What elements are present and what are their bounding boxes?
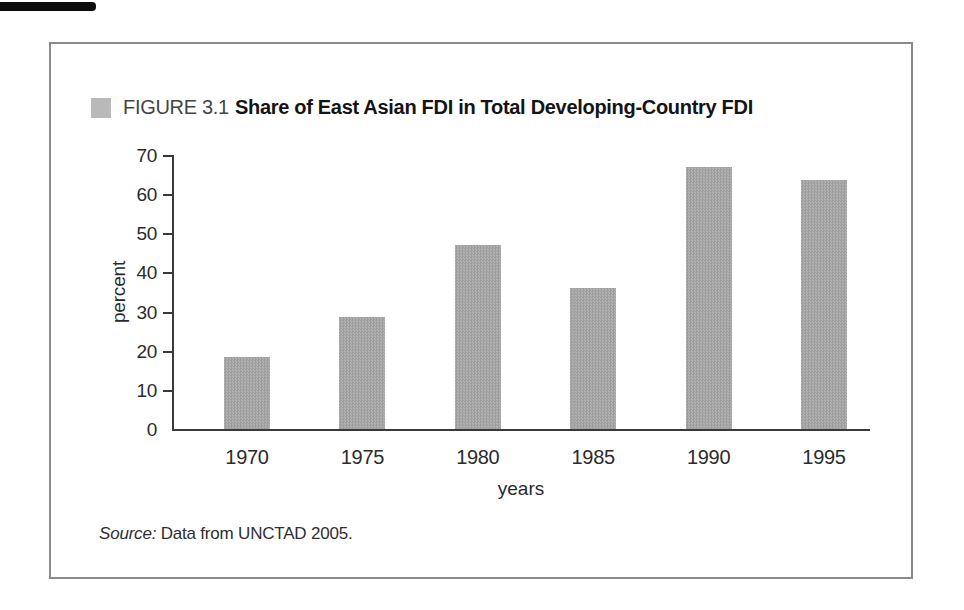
source-prefix: Source: <box>99 524 156 543</box>
y-tick-mark <box>163 233 172 235</box>
bar-1990 <box>686 167 732 429</box>
y-tick-mark <box>163 272 172 274</box>
bar-1980 <box>455 245 501 429</box>
x-tick-label: 1985 <box>548 446 638 469</box>
y-tick-label: 10 <box>115 380 157 402</box>
y-tick-label: 50 <box>115 223 157 245</box>
x-tick-label: 1970 <box>202 446 292 469</box>
y-tick-mark <box>163 194 172 196</box>
x-axis-line <box>172 429 870 431</box>
source-line: Source: Data from UNCTAD 2005. <box>99 524 353 544</box>
y-tick-label: 0 <box>115 419 157 441</box>
y-tick-mark <box>163 312 172 314</box>
figure-box: FIGURE 3.1 Share of East Asian FDI in To… <box>49 42 913 579</box>
source-text: Data from UNCTAD 2005. <box>156 524 352 543</box>
bar-1970 <box>224 357 270 429</box>
bar-chart: 010203040506070percent197019751980198519… <box>51 44 913 577</box>
y-tick-label: 70 <box>115 145 157 167</box>
x-tick-label: 1990 <box>664 446 754 469</box>
y-tick-mark <box>163 155 172 157</box>
y-tick-mark <box>163 351 172 353</box>
bar-1995 <box>801 180 847 429</box>
bar-1975 <box>339 317 385 429</box>
x-tick-label: 1995 <box>779 446 869 469</box>
x-tick-label: 1980 <box>433 446 523 469</box>
y-tick-mark <box>163 390 172 392</box>
bar-1985 <box>570 288 616 429</box>
y-tick-label: 60 <box>115 184 157 206</box>
y-axis-line <box>172 155 174 429</box>
x-tick-label: 1975 <box>317 446 407 469</box>
x-axis-label: years <box>498 478 544 500</box>
scan-artifact-bar <box>0 2 96 11</box>
y-tick-label: 20 <box>115 341 157 363</box>
scanned-page: FIGURE 3.1 Share of East Asian FDI in To… <box>0 0 964 610</box>
y-axis-label: percent <box>108 261 130 323</box>
